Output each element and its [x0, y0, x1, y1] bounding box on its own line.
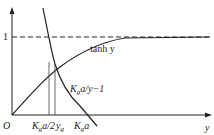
- hyperbola-label: Kga/y−1: [70, 84, 104, 96]
- tick-yg-sub: g: [60, 125, 64, 133]
- tick-kga-rest: a: [84, 120, 89, 131]
- x-tick-kga: Kga: [74, 121, 89, 133]
- hyperbola-curve: [43, 8, 97, 126]
- x-tick-yg: yg: [56, 121, 64, 133]
- x-axis-arrow-icon: [205, 113, 212, 118]
- x-axis-label: y: [205, 123, 209, 133]
- diagram-canvas: [0, 0, 214, 135]
- hyperbola-label-k: K: [70, 83, 77, 94]
- tick-half-rest: a/2: [42, 120, 55, 131]
- tick-kga-k: K: [74, 120, 81, 131]
- tanh-label: tanh y: [90, 44, 115, 54]
- tick-half-k: K: [32, 120, 39, 131]
- hyperbola-label-rest: a/y−1: [80, 83, 104, 94]
- origin-label: O: [3, 121, 10, 131]
- tanh-label-text: tanh y: [90, 43, 115, 54]
- y-tick-label-one: 1: [3, 32, 8, 42]
- x-tick-kga-half: Kga/2: [32, 121, 55, 133]
- y-axis-arrow-icon: [10, 7, 15, 14]
